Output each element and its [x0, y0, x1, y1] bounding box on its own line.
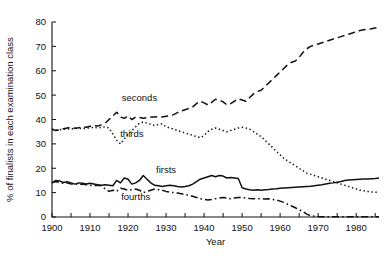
series-line-firsts — [52, 176, 379, 191]
series-line-fourths — [52, 182, 379, 217]
series-label-seconds: seconds — [122, 92, 158, 103]
x-axis-tick-label: 1970 — [308, 222, 329, 233]
series-label-fourths: fourths — [121, 191, 150, 202]
y-axis-tick-label: 30 — [35, 138, 46, 149]
x-axis-tick-label: 1910 — [79, 222, 100, 233]
x-axis-tick-label: 1930 — [155, 222, 176, 233]
series-label-thirds: thirds — [120, 128, 143, 139]
chart-axes — [52, 22, 379, 217]
series-label-firsts: firsts — [156, 164, 176, 175]
y-axis-tick-label: 20 — [35, 163, 46, 174]
x-axis-tick-label: 1950 — [232, 222, 253, 233]
y-axis-tick-label: 10 — [35, 187, 46, 198]
series-line-seconds — [52, 27, 379, 130]
y-axis-tick-label: 40 — [35, 114, 46, 125]
x-axis-tick-label: 1980 — [346, 222, 367, 233]
y-axis-title: % of finalists in each examination class — [4, 37, 15, 202]
y-axis-tick-label: 80 — [35, 16, 46, 27]
y-axis-tick-label: 70 — [35, 41, 46, 52]
x-axis-tick-label: 1960 — [270, 222, 291, 233]
x-axis-title: Year — [206, 236, 225, 247]
line-chart: 0102030405060708019001910192019301940195… — [0, 0, 388, 260]
chart-container: 0102030405060708019001910192019301940195… — [0, 0, 388, 260]
series-line-thirds — [52, 122, 379, 193]
y-axis-tick-label: 0 — [41, 211, 46, 222]
x-axis-tick-label: 1900 — [41, 222, 62, 233]
y-axis-tick-label: 60 — [35, 65, 46, 76]
x-axis-tick-label: 1940 — [194, 222, 215, 233]
x-axis-tick-label: 1920 — [117, 222, 138, 233]
y-axis-tick-label: 50 — [35, 90, 46, 101]
